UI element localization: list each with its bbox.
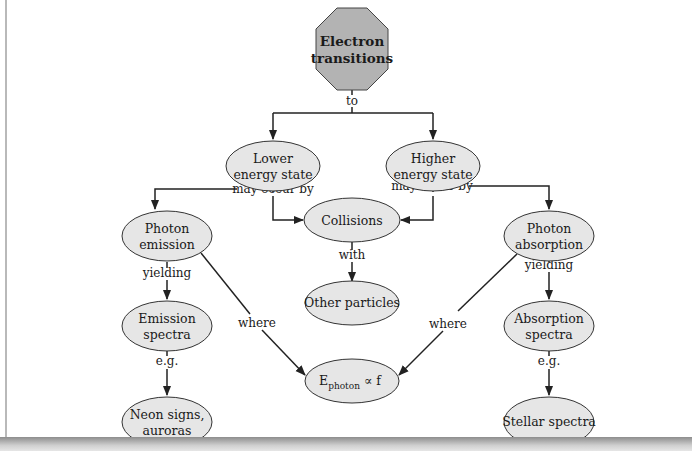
node-label: Higher — [411, 151, 455, 166]
node-label: spectra — [143, 327, 191, 342]
label-where-left: where — [238, 316, 276, 330]
node-higher-energy-state — [386, 141, 480, 191]
node-label: transitions — [311, 50, 394, 66]
edge-emission-to-ephoton — [262, 330, 305, 375]
node-label: energy state — [233, 167, 312, 182]
edge-lower-to-emission — [155, 189, 237, 209]
node-label: absorption — [515, 237, 583, 252]
node-label: auroras — [143, 423, 192, 438]
node-label: Other particles — [304, 295, 400, 310]
label-to: to — [346, 94, 358, 108]
edge-emission-where-upper — [201, 253, 250, 314]
edge-absorption-where-upper — [458, 254, 517, 311]
e-symbol: E — [319, 373, 328, 388]
label-eg-left: e.g. — [156, 354, 178, 368]
node-absorption-spectra — [504, 301, 594, 351]
node-electron-transitions: Electron transitions — [311, 8, 394, 90]
node-label: Photon — [527, 221, 572, 236]
node-label: Lower — [253, 151, 293, 166]
label-eg-right: e.g. — [538, 354, 560, 368]
node-label: Absorption — [513, 311, 584, 326]
node-label: Emission — [138, 311, 195, 326]
node-label: Stellar spectra — [502, 414, 596, 429]
node-photon-emission — [122, 211, 212, 261]
node-label: Photon — [145, 221, 190, 236]
node-label: Neon signs, — [130, 407, 205, 422]
nodes — [122, 141, 594, 447]
edge-higher-to-absorption — [469, 186, 549, 209]
bottom-border — [0, 437, 692, 451]
label-with: with — [339, 248, 366, 262]
node-label: energy state — [393, 167, 472, 182]
node-photon-absorption — [504, 211, 594, 261]
concept-map-figure: to may occur by may occur by with yieldi… — [0, 0, 692, 451]
proportional-f: ∝ f — [360, 373, 382, 388]
diagram-canvas: to may occur by may occur by with yieldi… — [0, 0, 692, 451]
label-where-right: where — [429, 317, 467, 331]
node-label: spectra — [525, 327, 573, 342]
node-label: Collisions — [321, 213, 383, 228]
node-lower-energy-state — [226, 141, 320, 191]
edge-absorption-to-ephoton — [399, 331, 443, 375]
edge-lower-to-collisions — [273, 196, 303, 220]
label-yielding-left: yielding — [142, 266, 192, 280]
node-emission-spectra — [122, 301, 212, 351]
node-label: emission — [139, 237, 195, 252]
left-border — [5, 0, 7, 440]
node-label: Electron — [320, 33, 385, 49]
photon-subscript: photon — [328, 381, 360, 391]
edge-higher-to-collisions — [401, 196, 433, 220]
